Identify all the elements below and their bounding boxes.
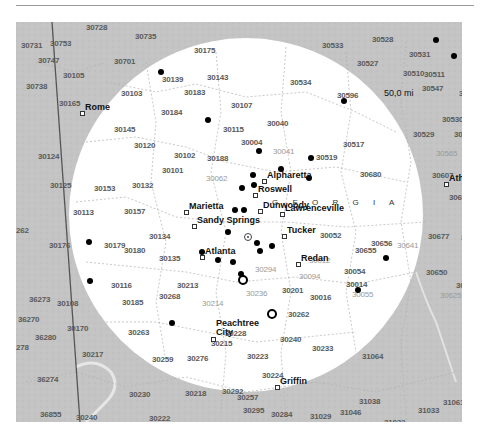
zip-code-label: 30528 (372, 36, 393, 44)
location-dot-marker[interactable] (230, 259, 236, 265)
location-dot-marker[interactable] (215, 257, 221, 263)
zip-code-label: 31064 (362, 353, 383, 361)
zip-code-label: 30054 (344, 268, 365, 276)
zip-code-label: 30107 (231, 102, 252, 110)
zip-code-label: 30041 (273, 148, 294, 156)
city-marker-icon (211, 337, 216, 342)
zip-code-label: 30565 (436, 150, 457, 158)
location-dot-marker[interactable] (383, 255, 389, 261)
zip-code-label: 262 (16, 227, 29, 235)
location-dot-marker[interactable] (256, 148, 262, 154)
zip-code-label: 36855 (40, 411, 61, 419)
zip-code-label: 30517 (343, 141, 364, 149)
location-dot-marker[interactable] (225, 229, 231, 235)
city-label[interactable]: Atlanta (205, 247, 236, 256)
city-label[interactable]: Redan (301, 254, 329, 263)
location-dot-marker[interactable] (169, 320, 175, 326)
zip-code-label: 30534 (290, 79, 311, 87)
location-dot-marker[interactable] (87, 278, 93, 284)
location-dot-marker[interactable] (239, 185, 245, 191)
zip-code-label: 30125 (50, 182, 71, 190)
location-dot-marker[interactable] (205, 117, 211, 123)
zip-code-label: 30184 (161, 109, 182, 117)
zip-code-label: 30176 (49, 242, 70, 250)
zip-code-label: 31033 (418, 407, 439, 415)
zip-code-label: 30188 (207, 155, 228, 163)
zip-code-label: 30240 (76, 414, 97, 422)
zip-code-label: 30153 (94, 185, 115, 193)
zip-code-label: 30529 (413, 131, 434, 139)
zip-code-label: 30157 (124, 208, 145, 216)
zip-code-label: 30262 (288, 311, 309, 319)
zip-code-label: 36273 (29, 296, 50, 304)
location-dot-marker[interactable] (232, 207, 238, 213)
location-ring-marker[interactable] (238, 275, 248, 285)
city-label[interactable]: Roswell (258, 185, 292, 194)
zip-code-label: 30257 (237, 394, 258, 402)
zip-code-label: 30120 (134, 142, 155, 150)
zip-code-label: 36274 (37, 376, 58, 384)
zip-code-label: 30108 (57, 300, 78, 308)
city-label[interactable]: Rome (85, 103, 110, 112)
zip-code-label: 30531 (409, 51, 430, 59)
location-dot-marker[interactable] (158, 69, 164, 75)
zip-code-label: 30527 (357, 60, 378, 68)
zip-code-label: 31038 (359, 398, 380, 406)
zip-code-label: 30165 (59, 100, 80, 108)
location-dot-marker[interactable] (308, 155, 314, 161)
location-dot-marker[interactable] (251, 182, 257, 188)
city-label[interactable]: Griffin (280, 377, 307, 386)
zip-code-label: 30521 (459, 90, 462, 98)
location-dot-marker[interactable] (241, 207, 247, 213)
radius-map[interactable]: 3072830735307313075330175305333052830531… (16, 22, 462, 422)
location-dot-marker[interactable] (250, 172, 256, 178)
city-label[interactable]: Alpharetta (267, 171, 312, 180)
zip-code-label: 30240 (280, 336, 301, 344)
zip-code-label: 30605 (449, 194, 462, 202)
zip-code-label: 30135 (159, 255, 180, 263)
location-ring-marker[interactable] (267, 309, 277, 319)
zip-code-label: 30105 (63, 72, 84, 80)
zip-code-label: 3064 (456, 282, 462, 290)
city-label[interactable]: Tucker (287, 226, 316, 235)
search-center-marker[interactable] (244, 233, 252, 241)
zip-code-label: 30175 (194, 47, 215, 55)
zip-code-label: 30222 (149, 415, 170, 422)
location-dot-marker[interactable] (269, 243, 275, 249)
zip-code-label: 30040 (267, 120, 288, 128)
zip-code-label: 30101 (162, 167, 183, 175)
zip-code-label: 30701 (114, 58, 135, 66)
zip-code-label: 30185 (122, 299, 143, 307)
zip-code-label: 30236 (246, 290, 267, 298)
location-dot-marker[interactable] (86, 239, 92, 245)
zip-code-label: 30139 (162, 76, 183, 84)
zip-code-label: 30680 (360, 171, 381, 179)
zip-code-label: 30276 (187, 355, 208, 363)
zip-code-label: 30259 (152, 356, 173, 364)
city-label[interactable]: Marietta (189, 202, 224, 211)
location-dot-marker[interactable] (257, 248, 263, 254)
zip-code-label: 30116 (111, 282, 132, 290)
location-dot-marker[interactable] (355, 287, 361, 293)
zip-code-label: 30519 (316, 154, 337, 162)
city-label[interactable]: Athens (449, 174, 462, 183)
location-dot-marker[interactable] (433, 37, 439, 43)
zip-code-label: 36270 (18, 316, 39, 324)
location-dot-marker[interactable] (451, 53, 457, 59)
city-label[interactable]: Sandy Springs (197, 216, 260, 225)
city-label[interactable]: PeachtreeCity (216, 319, 259, 337)
zip-code-label: 30004 (241, 139, 262, 147)
zip-code-label: 30294 (255, 266, 276, 274)
header-divider (16, 5, 474, 6)
zip-code-label: 30094 (299, 273, 320, 281)
zip-code-label: 30179 (104, 242, 125, 250)
location-dot-marker[interactable] (341, 98, 347, 104)
location-dot-marker[interactable] (254, 240, 260, 246)
zip-code-label: 30134 (149, 233, 170, 241)
zip-code-label: 30510 (403, 70, 424, 78)
zip-code-label: 30016 (310, 294, 331, 302)
zip-code-label: 30103 (121, 90, 142, 98)
zip-code-label: 30102 (174, 152, 195, 160)
zip-code-label: 30530 (442, 116, 462, 124)
zip-code-label: 30295 (243, 407, 264, 415)
